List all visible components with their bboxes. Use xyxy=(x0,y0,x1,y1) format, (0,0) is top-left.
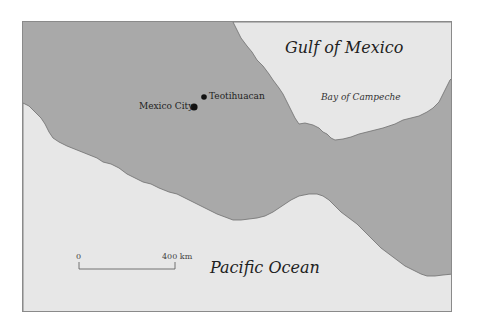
pacific-ocean-label: Pacific Ocean xyxy=(210,258,320,277)
mexico-city-label: Mexico City xyxy=(139,101,193,111)
pacific-ocean-water xyxy=(23,103,452,312)
gulf-of-mexico-label: Gulf of Mexico xyxy=(285,38,403,57)
scale-start-label: 0 xyxy=(76,252,81,261)
scale-end-label: 400 km xyxy=(162,252,192,261)
teotihuacan-label: Teotihuacan xyxy=(209,91,265,101)
bay-of-campeche-label: Bay of Campeche xyxy=(321,92,401,102)
map-frame: Gulf of Mexico Bay of Campeche Pacific O… xyxy=(22,21,452,312)
teotihuacan-marker xyxy=(201,94,207,100)
